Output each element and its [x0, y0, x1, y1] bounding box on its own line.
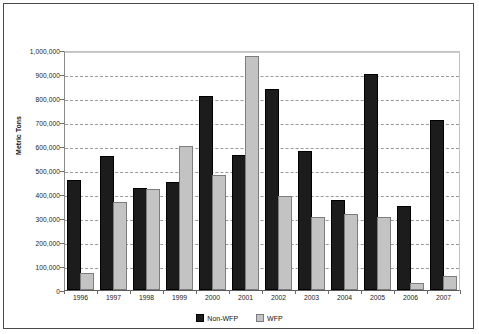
x-axis-tick-mark	[229, 290, 230, 294]
bar-group	[164, 52, 197, 290]
bar-group	[329, 52, 362, 290]
x-axis-tick-mark	[460, 290, 461, 294]
bar-wfp-1996[interactable]	[80, 273, 94, 290]
bar-wfp-2002[interactable]	[278, 196, 292, 290]
x-axis-tick-mark	[394, 290, 395, 294]
bar-non-wfp-2002[interactable]	[265, 89, 279, 290]
x-axis-tick-label-2007: 2007	[424, 294, 464, 301]
bar-group	[263, 52, 296, 290]
x-axis-tick-mark	[328, 290, 329, 294]
x-axis-tick-mark	[427, 290, 428, 294]
bar-non-wfp-1996[interactable]	[67, 180, 81, 290]
bar-non-wfp-2000[interactable]	[199, 96, 213, 290]
y-axis-tick-label: 100,000	[6, 264, 60, 271]
chart-frame: Metric Tons 0100,000200,000300,000400,00…	[3, 3, 474, 329]
bar-wfp-2003[interactable]	[311, 217, 325, 290]
x-axis-tick-mark	[130, 290, 131, 294]
y-axis-tick-label: 400,000	[6, 192, 60, 199]
bar-wfp-1998[interactable]	[146, 189, 160, 290]
y-axis-tick-label: 600,000	[6, 144, 60, 151]
bar-group	[230, 52, 263, 290]
y-axis-tick-labels: 0100,000200,000300,000400,000500,000600,…	[4, 51, 60, 291]
y-axis-tick-label: 1,000,000	[6, 48, 60, 55]
bar-group	[65, 52, 98, 290]
x-axis-tick-mark	[196, 290, 197, 294]
bar-wfp-2001[interactable]	[245, 56, 259, 290]
bar-non-wfp-2003[interactable]	[298, 151, 312, 290]
plot-area	[64, 51, 460, 291]
legend-swatch-icon	[256, 314, 264, 322]
y-axis-tick-label: 800,000	[6, 96, 60, 103]
x-axis-tick-mark	[64, 290, 65, 294]
legend-swatch-icon	[196, 314, 204, 322]
legend-label: Non-WFP	[207, 315, 238, 322]
bar-wfp-2005[interactable]	[377, 217, 391, 290]
bar-group	[131, 52, 164, 290]
bar-non-wfp-2004[interactable]	[331, 200, 345, 290]
bar-group	[197, 52, 230, 290]
bar-wfp-1997[interactable]	[113, 202, 127, 290]
bar-non-wfp-1998[interactable]	[133, 188, 147, 290]
bar-group	[395, 52, 428, 290]
x-axis-tick-mark	[97, 290, 98, 294]
x-axis-tick-mark	[163, 290, 164, 294]
x-axis-tick-mark	[262, 290, 263, 294]
legend-item-wfp[interactable]: WFP	[256, 314, 283, 322]
bar-non-wfp-1999[interactable]	[166, 182, 180, 290]
bar-non-wfp-2006[interactable]	[397, 206, 411, 290]
bar-group	[296, 52, 329, 290]
y-axis-tick-label: 300,000	[6, 216, 60, 223]
legend-item-non-wfp[interactable]: Non-WFP	[196, 314, 238, 322]
bar-wfp-2000[interactable]	[212, 175, 226, 290]
y-axis-tick-label: 0	[6, 288, 60, 295]
bar-wfp-2006[interactable]	[410, 283, 424, 290]
bar-wfp-1999[interactable]	[179, 146, 193, 290]
bar-non-wfp-2007[interactable]	[430, 120, 444, 290]
x-axis-tick-mark	[361, 290, 362, 294]
y-axis-tick-label: 500,000	[6, 168, 60, 175]
legend-label: WFP	[267, 315, 283, 322]
bar-group	[98, 52, 131, 290]
y-axis-tick-label: 200,000	[6, 240, 60, 247]
x-axis-tick-mark	[295, 290, 296, 294]
chart-legend: Non-WFPWFP	[4, 314, 475, 322]
bar-non-wfp-2005[interactable]	[364, 74, 378, 290]
bar-wfp-2007[interactable]	[443, 276, 457, 290]
y-axis-tick-label: 700,000	[6, 120, 60, 127]
bar-wfp-2004[interactable]	[344, 214, 358, 290]
bar-group	[428, 52, 461, 290]
bar-non-wfp-1997[interactable]	[100, 156, 114, 290]
bar-non-wfp-2001[interactable]	[232, 155, 246, 290]
x-axis-tick-labels: 1996199719981999200020012002200320042005…	[64, 294, 460, 308]
y-axis-tick-label: 900,000	[6, 72, 60, 79]
bar-group	[362, 52, 395, 290]
